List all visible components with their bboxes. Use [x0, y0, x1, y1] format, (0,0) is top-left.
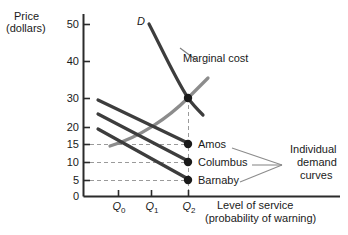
y-tick-label-30: 30	[57, 92, 79, 104]
point-label-amos: Amos	[198, 138, 226, 150]
y-tick-label-40: 40	[57, 55, 79, 67]
x-tick-label-q2: Q2	[176, 200, 202, 215]
y-tick-label-0: 0	[57, 190, 79, 202]
demand-curve-label-d: D	[137, 15, 145, 27]
market-demand-curve-d	[149, 24, 203, 115]
marginal-cost-curve-label: Marginal cost	[183, 52, 248, 64]
point-label-barnaby: Barnaby	[198, 174, 239, 186]
y-axis-title-line2: (dollars)	[6, 22, 46, 34]
point-marker-barnaby	[184, 176, 192, 184]
y-tick-label-15: 15	[57, 138, 79, 150]
figure-container: Price (dollars) 50 40 30 20 15 10 5 0 Q0…	[0, 0, 348, 235]
x-tick-label-q1: Q1	[139, 200, 165, 215]
bracket-label-line2: demand	[297, 156, 337, 168]
y-tick-label-50: 50	[57, 18, 79, 30]
x-axis-title-line1: Level of service	[217, 199, 293, 211]
x-tick-q0-letter: Q	[112, 200, 121, 212]
economics-chart-canvas	[0, 0, 348, 235]
equilibrium-point-marker	[184, 94, 192, 102]
bracket-label-line1: Individual	[290, 143, 336, 155]
x-tick-q2-letter: Q	[182, 200, 191, 212]
x-axis-title-line2: (probability of warning)	[205, 212, 316, 224]
x-tick-q1-letter: Q	[145, 200, 154, 212]
x-tick-q2-subscript: 2	[191, 206, 195, 215]
y-tick-label-5: 5	[57, 174, 79, 186]
point-label-columbus: Columbus	[198, 156, 248, 168]
x-tick-label-q0: Q0	[106, 200, 132, 215]
x-tick-q1-subscript: 1	[154, 206, 158, 215]
point-marker-amos	[184, 140, 192, 148]
y-tick-label-20: 20	[57, 121, 79, 133]
point-marker-columbus	[184, 158, 192, 166]
x-tick-q0-subscript: 0	[121, 206, 125, 215]
y-tick-label-10: 10	[57, 156, 79, 168]
bracket-label-line3: curves	[300, 169, 332, 181]
y-axis-title-line1: Price	[14, 10, 39, 22]
